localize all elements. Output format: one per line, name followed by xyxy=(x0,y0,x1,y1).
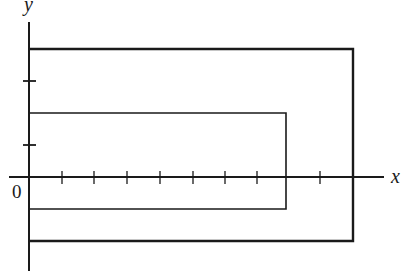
origin-label: 0 xyxy=(12,181,22,202)
coordinate-diagram: y x 0 xyxy=(0,0,404,271)
inner-rectangle xyxy=(29,113,286,209)
outer-rectangle xyxy=(29,49,353,241)
x-axis-label: x xyxy=(390,165,400,187)
y-axis-label: y xyxy=(22,0,33,16)
